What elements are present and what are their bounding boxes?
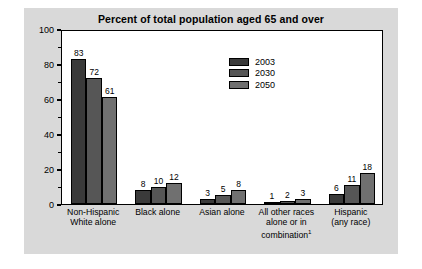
legend-item-2030[interactable]: 2030 xyxy=(229,69,275,78)
bar-column[interactable]: 8 xyxy=(135,31,151,204)
bar-column[interactable]: 10 xyxy=(151,31,167,204)
bar-column[interactable]: 2 xyxy=(280,31,296,204)
bar-value-label: 8 xyxy=(141,179,146,189)
x-axis-label: Black alone xyxy=(125,207,189,217)
x-axis-label-line: Non-Hispanic xyxy=(61,207,125,217)
bar-column[interactable]: 3 xyxy=(200,31,216,204)
chart-legend: 200320302050 xyxy=(229,57,275,92)
y-axis-tick-label: 0 xyxy=(49,200,54,210)
bar-2030[interactable] xyxy=(215,195,231,204)
x-axis-label-line: (any race) xyxy=(319,217,383,227)
chart-figure: Percent of total population aged 65 and … xyxy=(24,8,398,254)
bar-column[interactable]: 72 xyxy=(86,31,102,204)
plot-area: 8372618101235812361118 xyxy=(61,30,383,205)
bar-value-label: 8 xyxy=(236,179,241,189)
x-axis-label: Hispanic(any race) xyxy=(319,207,383,227)
legend-swatch-icon xyxy=(229,81,249,89)
bar-column[interactable]: 6 xyxy=(329,31,345,204)
y-axis: 020406080100 xyxy=(24,30,61,205)
y-axis-tick-label: 40 xyxy=(44,130,54,140)
bar-2003[interactable] xyxy=(200,199,216,204)
bar-value-label: 12 xyxy=(169,172,178,182)
bar-2003[interactable] xyxy=(135,190,151,204)
bar-column[interactable]: 3 xyxy=(295,31,311,204)
bar-2030[interactable] xyxy=(280,201,296,205)
x-axis-label: Non-HispanicWhite alone xyxy=(61,207,125,227)
x-axis-label-line: Black alone xyxy=(125,207,189,217)
bar-2030[interactable] xyxy=(151,187,167,205)
x-axis-label: All other racesalone or incombination1 xyxy=(254,207,318,240)
bar-2030[interactable] xyxy=(86,78,102,204)
bar-column[interactable]: 83 xyxy=(71,31,87,204)
bar-column[interactable]: 18 xyxy=(360,31,376,204)
x-axis-label-line: alone or in xyxy=(254,217,318,227)
bar-2050[interactable] xyxy=(102,97,118,204)
x-axis-label-line: All other races xyxy=(254,207,318,217)
bar-value-label: 2 xyxy=(285,190,290,200)
chart-title: Percent of total population aged 65 and … xyxy=(24,13,398,25)
y-axis-tick-label: 20 xyxy=(44,165,54,175)
legend-label: 2003 xyxy=(255,57,275,67)
bar-value-label: 61 xyxy=(105,86,114,96)
x-axis-label-line: combination1 xyxy=(254,227,318,240)
y-axis-tick-label: 80 xyxy=(44,60,54,70)
x-axis-label-line: Hispanic xyxy=(319,207,383,217)
bar-value-label: 5 xyxy=(221,184,226,194)
bar-2050[interactable] xyxy=(360,173,376,205)
x-axis-label-line: Asian alone xyxy=(190,207,254,217)
bar-group: 837261 xyxy=(71,31,118,204)
bar-value-label: 11 xyxy=(347,174,356,184)
bar-2003[interactable] xyxy=(71,59,87,204)
bar-2003[interactable] xyxy=(329,194,345,205)
bar-2050[interactable] xyxy=(231,190,247,204)
x-axis-label-line: White alone xyxy=(61,217,125,227)
bar-2003[interactable] xyxy=(264,202,280,204)
bar-value-label: 72 xyxy=(89,67,98,77)
legend-swatch-icon xyxy=(229,58,249,66)
legend-item-2003[interactable]: 2003 xyxy=(229,57,275,66)
bar-2050[interactable] xyxy=(166,183,182,204)
bar-value-label: 6 xyxy=(334,183,339,193)
bar-column[interactable]: 61 xyxy=(102,31,118,204)
bar-value-label: 3 xyxy=(205,188,210,198)
bar-value-label: 83 xyxy=(74,48,83,58)
bar-2030[interactable] xyxy=(344,185,360,204)
bar-group: 61118 xyxy=(329,31,376,204)
legend-swatch-icon xyxy=(229,69,249,77)
legend-label: 2050 xyxy=(255,80,275,90)
y-axis-tick-label: 100 xyxy=(39,25,54,35)
bar-value-label: 1 xyxy=(270,191,275,201)
bar-series-container: 8372618101235812361118 xyxy=(62,31,382,204)
bar-value-label: 18 xyxy=(363,162,372,172)
bar-value-label: 10 xyxy=(154,176,163,186)
legend-item-2050[interactable]: 2050 xyxy=(229,80,275,89)
footnote-marker: 1 xyxy=(308,228,311,235)
bar-column[interactable]: 11 xyxy=(344,31,360,204)
bar-value-label: 3 xyxy=(301,188,306,198)
y-axis-tick-label: 60 xyxy=(44,95,54,105)
x-axis-label: Asian alone xyxy=(190,207,254,217)
bar-2050[interactable] xyxy=(295,199,311,204)
bar-group: 81012 xyxy=(135,31,182,204)
bar-column[interactable]: 12 xyxy=(166,31,182,204)
legend-label: 2030 xyxy=(255,68,275,78)
